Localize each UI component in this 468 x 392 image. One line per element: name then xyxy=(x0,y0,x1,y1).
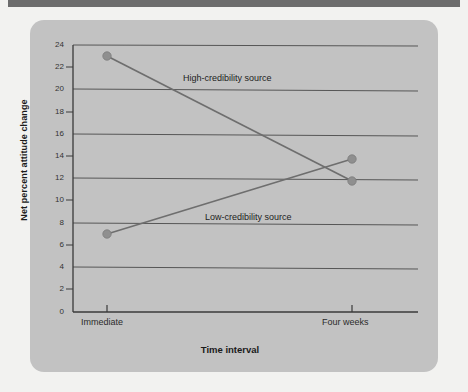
y-tick-16: 16 xyxy=(48,130,64,138)
y-tick-8: 8 xyxy=(48,219,64,227)
y-axis-minor-ticks xyxy=(66,67,73,289)
line-chart-svg xyxy=(0,0,468,392)
x-axis-ticks xyxy=(107,305,352,312)
y-tick-10: 10 xyxy=(48,196,64,204)
y-tick-12: 12 xyxy=(48,174,64,182)
y-axis-label: Net percent attitude change xyxy=(19,90,29,230)
y-tick-22: 22 xyxy=(48,63,64,71)
x-tick-immediate: Immediate xyxy=(81,317,123,327)
y-tick-24: 24 xyxy=(48,41,64,49)
series-label-high-credibility: High-credibility source xyxy=(183,73,272,83)
series-low-credibility-source xyxy=(103,155,356,238)
series-label-low-credibility: Low-credibility source xyxy=(205,212,292,222)
y-tick-18: 18 xyxy=(48,108,64,116)
data-point-low-immediate xyxy=(103,230,111,238)
chart-figure: 24 22 20 18 16 14 12 10 8 6 4 2 0 Immedi… xyxy=(0,0,468,392)
y-tick-0: 0 xyxy=(48,308,64,316)
x-tick-four-weeks: Four weeks xyxy=(322,317,369,327)
series-high-credibility-source xyxy=(103,52,356,185)
y-tick-2: 2 xyxy=(48,285,64,293)
y-tick-14: 14 xyxy=(48,152,64,160)
data-point-low-four-weeks xyxy=(348,155,356,163)
y-tick-4: 4 xyxy=(48,263,64,271)
y-tick-20: 20 xyxy=(48,85,64,93)
y-tick-6: 6 xyxy=(48,241,64,249)
data-point-high-four-weeks xyxy=(348,177,356,185)
x-axis-label: Time interval xyxy=(150,344,310,355)
data-point-high-immediate xyxy=(103,52,111,60)
